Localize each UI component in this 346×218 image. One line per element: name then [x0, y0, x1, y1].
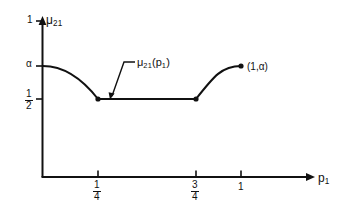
annotation-leader-line-group — [109, 62, 135, 100]
endpoint-annotation-label: (1,α) — [247, 62, 268, 72]
curve-point-threequarter-half — [193, 96, 198, 101]
fraction-numerator: 1 — [25, 89, 33, 99]
curve-point-one-alpha — [238, 63, 243, 68]
x-tick-label-quarter: 1 4 — [93, 180, 101, 202]
fraction-denominator: 2 — [25, 101, 33, 111]
fraction-three-quarters: 3 4 — [191, 180, 199, 202]
curve-annotation-argument-close: ) — [166, 56, 170, 68]
curve-annotation-argument: (p — [152, 56, 162, 68]
fraction-denominator: 4 — [93, 192, 101, 202]
figure-container: μ21 p1 1 α 1 2 1 4 3 4 1 μ21(p1) (1,α) — [0, 0, 346, 218]
x-tick-label-one: 1 — [238, 182, 244, 192]
x-axis-label-subscript: 1 — [325, 177, 330, 186]
fraction-numerator: 1 — [93, 180, 101, 190]
y-axis-label: μ21 — [46, 14, 62, 28]
y-tick-label-alpha: α — [26, 59, 32, 69]
curve-point-quarter-half — [95, 96, 100, 101]
curve-annotation-label: μ21(p1) — [137, 57, 170, 70]
x-tick-label-threequarter: 3 4 — [191, 180, 199, 202]
y-axis-group — [36, 16, 46, 177]
curve-annotation-leader-line — [112, 62, 135, 96]
fraction-one-half: 1 2 — [25, 89, 33, 111]
y-tick-label-half: 1 2 — [25, 89, 33, 111]
y-tick-label-1: 1 — [27, 15, 33, 25]
curve-ascending-arc — [196, 66, 241, 99]
fraction-denominator: 4 — [191, 192, 199, 202]
x-axis-arrowhead — [306, 173, 315, 181]
plot-svg — [0, 0, 346, 218]
y-axis-label-base: μ — [46, 13, 53, 27]
fraction-numerator: 3 — [191, 180, 199, 190]
x-axis-group — [42, 171, 316, 181]
x-axis-label-base: p — [318, 171, 325, 185]
fraction-one-quarter: 1 4 — [93, 180, 101, 202]
y-axis-label-subscript: 21 — [53, 19, 62, 28]
x-axis-label: p1 — [318, 172, 329, 186]
curve-descending-arc — [43, 66, 98, 99]
curve-annotation-subscript: 21 — [143, 61, 152, 70]
